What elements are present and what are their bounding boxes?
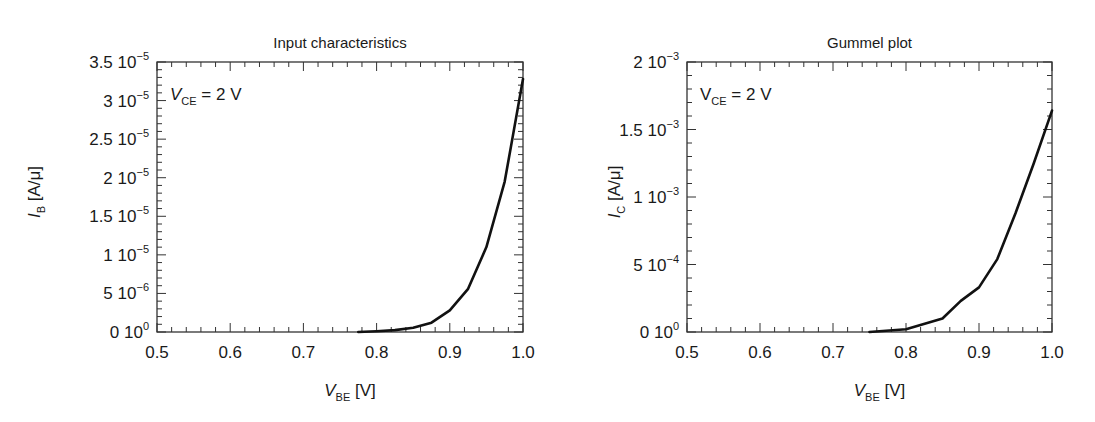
x-tick-label: 0.5 — [145, 343, 169, 362]
chart-title: Input characteristics — [273, 34, 406, 51]
x-tick-label: 0.9 — [967, 343, 991, 362]
data-curve — [870, 111, 1053, 332]
y-tick-label: 1.5 10−3 — [619, 118, 679, 140]
y-axis-label: IC [A/μ] — [605, 166, 627, 219]
x-tick-label: 0.8 — [894, 343, 918, 362]
x-tick-label: 1.0 — [1040, 343, 1064, 362]
y-tick-label: 5 10−6 — [103, 281, 149, 303]
x-axis-label: VBE [V] — [854, 381, 906, 403]
x-tick-label: 0.8 — [365, 343, 389, 362]
y-axis-label: IB [A/μ] — [25, 166, 47, 218]
x-axis-label: VBE [V] — [324, 381, 376, 403]
y-tick-label: 1 10−5 — [103, 243, 149, 265]
x-tick-label: 0.6 — [218, 343, 242, 362]
x-tick-label: 0.5 — [675, 343, 699, 362]
y-tick-label: 0 100 — [110, 320, 149, 342]
y-tick-label: 3.5 10−5 — [89, 50, 149, 72]
charts-canvas: Input characteristics0.50.60.70.80.91.00… — [0, 0, 1095, 422]
x-tick-label: 0.7 — [292, 343, 316, 362]
chart-title: Gummel plot — [827, 34, 913, 51]
gummel-plot-panel: Gummel plot0.50.60.70.80.91.00 1005 10−4… — [605, 34, 1064, 403]
vce-annotation: VCE = 2 V — [700, 85, 772, 107]
y-tick-label: 2 10−5 — [103, 166, 149, 188]
vce-annotation: VCE = 2 V — [170, 85, 242, 107]
data-curve — [358, 79, 523, 332]
y-tick-label: 3 10−5 — [103, 89, 149, 111]
x-tick-label: 0.7 — [821, 343, 845, 362]
input-characteristics-panel: Input characteristics0.50.60.70.80.91.00… — [25, 34, 535, 403]
y-tick-label: 1.5 10−5 — [89, 204, 149, 226]
y-tick-label: 0 100 — [640, 320, 679, 342]
y-tick-label: 1 10−3 — [633, 185, 679, 207]
x-tick-label: 1.0 — [511, 343, 535, 362]
x-tick-label: 0.6 — [748, 343, 772, 362]
x-tick-label: 0.9 — [438, 343, 462, 362]
y-tick-label: 2 10−3 — [633, 50, 679, 72]
y-tick-label: 2.5 10−5 — [89, 127, 149, 149]
y-tick-label: 5 10−4 — [633, 253, 679, 275]
